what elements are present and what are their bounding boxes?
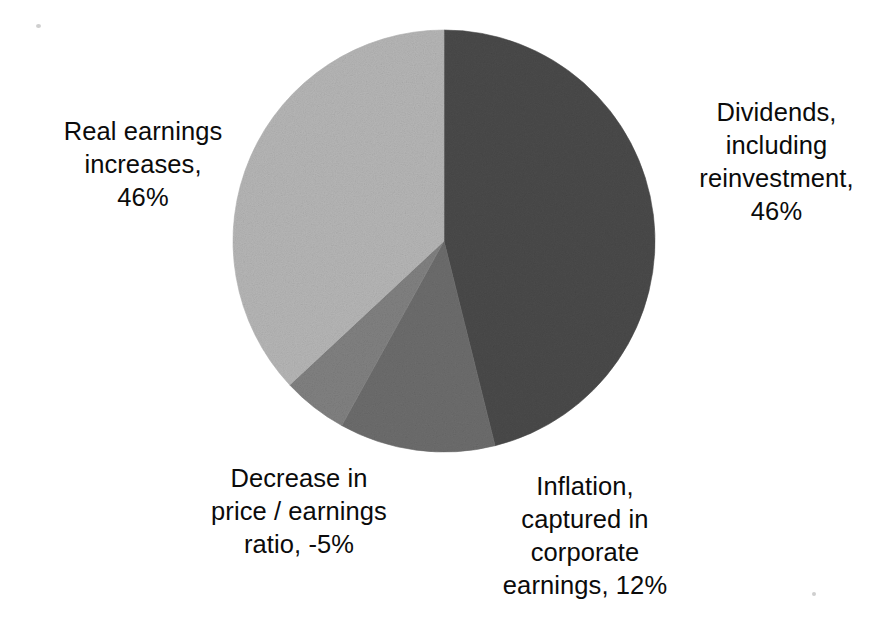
scan-speck <box>812 592 816 596</box>
scan-speck <box>36 24 41 28</box>
pie-label-inflation: Inflation, captured in corporate earning… <box>452 470 718 603</box>
pie-label-real-earnings: Real earnings increases, 46% <box>8 115 278 214</box>
pie-label-decrease-pe: Decrease in price / earnings ratio, -5% <box>160 462 438 561</box>
pie-chart-figure: Real earnings increases, 46% Dividends, … <box>0 0 893 641</box>
pie-label-dividends: Dividends, including reinvestment, 46% <box>660 96 893 229</box>
